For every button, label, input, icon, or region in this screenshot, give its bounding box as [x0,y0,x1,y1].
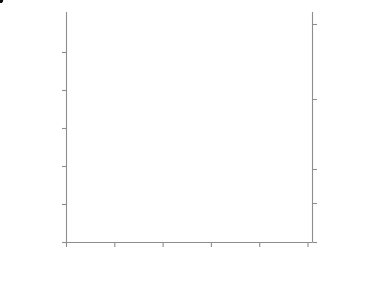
data-point-markers [0,0,3,3]
data-point-90min [0,0,3,3]
y-axis-left [62,12,67,243]
x-axis [67,243,313,248]
growth-curve-figure [0,0,388,286]
chart-svg [0,0,388,286]
y-axis-right [313,12,318,243]
